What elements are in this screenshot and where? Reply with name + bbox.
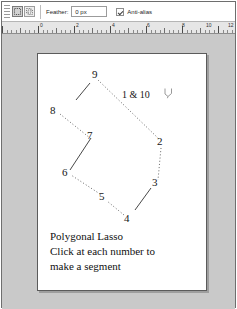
lasso-point-label: 4 (124, 213, 130, 224)
ruler-tick (178, 30, 179, 33)
lasso-point-label: 5 (99, 191, 105, 202)
ruler-tick (70, 30, 71, 33)
ruler-tick (133, 30, 134, 33)
canvas-caption: Polygonal LassoClick at each number toma… (50, 229, 155, 274)
ruler-label: 8 (182, 22, 185, 28)
ruler-tick (7, 30, 8, 33)
ruler-tick (124, 30, 125, 33)
ruler-tick (47, 30, 48, 33)
ruler-tick (101, 30, 102, 33)
ruler-tick (142, 30, 143, 33)
antialias-control[interactable]: Anti-alias (116, 8, 152, 16)
ruler-tick (25, 30, 26, 33)
ruler-tick (20, 28, 21, 33)
ruler-tick (119, 30, 120, 33)
lasso-segment-solid (135, 188, 151, 210)
lasso-point-label: 9 (92, 69, 98, 80)
ruler-tick (191, 30, 192, 33)
ruler-tick (79, 30, 80, 33)
lasso-segment-dotted (107, 201, 124, 215)
polygonal-lasso-cursor-icon (163, 87, 175, 99)
ruler-label: 12 (228, 22, 234, 28)
lasso-point-label: 8 (50, 105, 56, 116)
ruler-label: 0 (40, 22, 43, 28)
document-canvas[interactable]: 1 & 1023456789 Polygonal LassoClick at e… (37, 53, 207, 291)
ruler-tick (2, 26, 3, 33)
ruler-tick (65, 30, 66, 33)
ruler-tick (196, 30, 197, 33)
new-selection-icon (14, 8, 21, 15)
feather-label: Feather: (46, 9, 68, 15)
photoshop-lasso-screenshot: Feather: 0 px Anti-alias 024681012 1 & 1… (0, 0, 237, 309)
ruler-label: 2 (76, 22, 79, 28)
feather-input[interactable]: 0 px (71, 6, 107, 17)
ruler-tick (155, 30, 156, 33)
ruler-tick (128, 28, 129, 33)
ruler-tick (83, 30, 84, 33)
ruler-tick (61, 30, 62, 33)
toolbar-grip[interactable] (4, 5, 10, 19)
ruler-tick (52, 30, 53, 33)
ruler-tick (88, 30, 89, 33)
ruler-tick (173, 30, 174, 33)
ruler-tick (223, 30, 224, 33)
ruler-tick (164, 28, 165, 33)
ruler-tick (137, 30, 138, 33)
ruler-tick (110, 26, 111, 33)
ruler-tick (218, 26, 219, 33)
lasso-point-label: 7 (87, 130, 93, 141)
ruler-tick (232, 30, 233, 33)
lasso-point-label: 3 (152, 177, 158, 188)
horizontal-ruler[interactable]: 024681012 (2, 22, 235, 34)
lasso-segment-dotted (158, 148, 161, 180)
ruler-label: 6 (147, 22, 150, 28)
ruler-tick (11, 30, 12, 33)
document-workspace: 1 & 1023456789 Polygonal LassoClick at e… (2, 34, 235, 309)
ruler-tick (29, 30, 30, 33)
ruler-tick (38, 26, 39, 33)
ruler-label: 4 (112, 22, 115, 28)
lasso-segment-dotted (60, 114, 90, 138)
new-selection-button[interactable] (12, 6, 23, 17)
ruler-tick (227, 30, 228, 33)
ruler-tick (106, 30, 107, 33)
ruler-tick (16, 30, 17, 33)
tool-options-bar: Feather: 0 px Anti-alias (2, 2, 235, 22)
ruler-tick (214, 30, 215, 33)
lasso-point-label: 1 & 10 (122, 89, 150, 100)
add-to-selection-icon (26, 8, 33, 15)
window-frame: Feather: 0 px Anti-alias 024681012 1 & 1… (1, 1, 236, 308)
ruler-tick (43, 30, 44, 33)
ruler-tick (209, 30, 210, 33)
ruler-tick (97, 30, 98, 33)
lasso-segment-dotted (71, 175, 100, 194)
antialias-label: Anti-alias (127, 9, 152, 15)
caption-line: Click at each number to (50, 244, 155, 259)
lasso-segment-solid (70, 138, 91, 170)
ruler-tick (200, 28, 201, 33)
ruler-tick (92, 28, 93, 33)
ruler-tick (115, 30, 116, 33)
caption-line: Polygonal Lasso (50, 229, 155, 244)
ruler-label: 10 (206, 22, 212, 28)
ruler-tick (74, 26, 75, 33)
ruler-tick (56, 28, 57, 33)
lasso-point-label: 6 (62, 167, 68, 178)
lasso-point-label: 2 (157, 136, 163, 147)
antialias-checkbox[interactable] (116, 8, 124, 16)
caption-line: make a segment (50, 259, 155, 274)
feather-control: Feather: 0 px (46, 6, 107, 17)
ruler-tick (169, 30, 170, 33)
ruler-tick (187, 30, 188, 33)
lasso-segment-solid (76, 83, 90, 100)
selection-mode-button-group (12, 6, 35, 17)
toolbar-divider (40, 5, 41, 19)
ruler-tick (160, 30, 161, 33)
ruler-tick (205, 30, 206, 33)
add-to-selection-button[interactable] (24, 6, 35, 17)
ruler-tick (34, 30, 35, 33)
ruler-tick (151, 30, 152, 33)
